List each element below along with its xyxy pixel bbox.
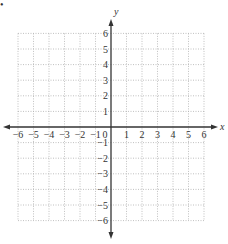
y-tick-label: −3 (97, 168, 108, 179)
x-tick-label: 5 (186, 129, 191, 140)
y-axis-arrow-up-icon (109, 19, 114, 26)
x-tick-label: 4 (171, 129, 176, 140)
origin-label: 0 (103, 129, 108, 140)
x-axis-arrow-left-icon (3, 125, 10, 130)
y-tick-label: −2 (97, 153, 108, 164)
x-tick-label: −2 (75, 129, 86, 140)
x-tick-label: −6 (13, 129, 24, 140)
x-tick-label: −3 (59, 129, 70, 140)
x-tick-label: 6 (202, 129, 207, 140)
y-tick-label: 4 (103, 59, 108, 70)
coordinate-plane: −6−5−4−3−2−1123456−6−5−4−3−2−1123456 x y… (0, 0, 228, 244)
y-tick-label: 2 (103, 90, 108, 101)
x-tick-label: −4 (44, 129, 55, 140)
figure-marker: • (0, 0, 4, 10)
y-tick-label: −4 (97, 184, 108, 195)
y-tick-label: 3 (103, 75, 108, 86)
y-axis-arrow-down-icon (109, 232, 114, 239)
x-tick-label: 2 (140, 129, 145, 140)
x-tick-label: 1 (124, 129, 129, 140)
x-axis-arrow-right-icon (211, 125, 218, 130)
y-tick-label: −6 (97, 215, 108, 226)
y-tick-label: 1 (103, 106, 108, 117)
x-tick-label: 3 (155, 129, 160, 140)
x-tick-label: −5 (28, 129, 39, 140)
x-axis-label: x (219, 121, 225, 132)
y-axis-label: y (113, 6, 119, 17)
y-tick-label: 5 (103, 44, 108, 55)
y-tick-label: −5 (97, 200, 108, 211)
y-tick-label: 6 (103, 28, 108, 39)
